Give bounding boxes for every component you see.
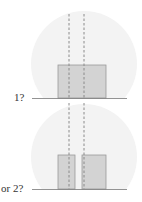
block-right	[82, 155, 106, 189]
panel-two-blocks: or 2?	[1, 103, 137, 202]
block	[58, 65, 106, 98]
panel-label: 1?	[14, 91, 25, 103]
panel-one-block: 1?	[14, 11, 137, 117]
block-left	[58, 155, 75, 189]
diagram: 1? or 2?	[0, 0, 142, 202]
panel-label: or 2?	[1, 182, 23, 194]
